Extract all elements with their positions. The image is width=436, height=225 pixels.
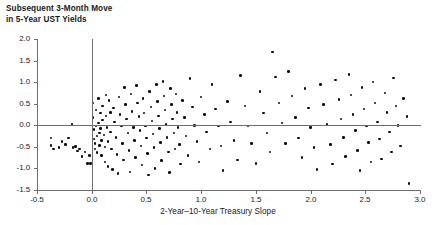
data-point: [356, 149, 359, 152]
data-point: [67, 137, 70, 140]
data-point: [376, 121, 379, 124]
data-point: [406, 115, 409, 118]
data-point: [96, 135, 99, 138]
data-point: [334, 79, 337, 82]
data-point: [255, 162, 258, 165]
data-point: [319, 83, 322, 86]
x-tick: [311, 191, 312, 194]
data-point: [128, 149, 131, 152]
data-point: [125, 118, 128, 121]
y-axis-spine: [37, 39, 38, 191]
data-point: [160, 159, 163, 162]
data-point: [94, 142, 97, 145]
x-tick: [256, 191, 257, 194]
data-point: [148, 90, 151, 93]
y-tick: [34, 61, 37, 62]
data-point: [150, 106, 153, 109]
data-point: [155, 83, 158, 86]
data-point: [119, 113, 122, 116]
data-point: [348, 73, 351, 76]
data-point: [136, 102, 139, 105]
data-point: [162, 80, 165, 83]
data-point: [388, 131, 391, 134]
data-point: [74, 145, 77, 148]
data-point: [171, 118, 174, 121]
data-point: [178, 143, 181, 146]
data-point: [96, 151, 99, 154]
scatter-plot-area: -1.5-1.0-0.50.00.51.01.52.0-0.50.00.51.0…: [0, 0, 436, 225]
x-tick: [92, 191, 93, 194]
data-point: [386, 111, 389, 114]
data-point: [122, 159, 125, 162]
data-point: [141, 164, 144, 167]
data-point: [294, 116, 297, 119]
data-point: [281, 122, 284, 125]
y-tick: [34, 147, 37, 148]
data-point: [269, 151, 272, 154]
data-point: [158, 127, 161, 130]
data-point: [176, 111, 179, 114]
data-point: [301, 156, 304, 159]
data-point: [105, 94, 108, 97]
data-point: [52, 148, 55, 151]
data-point: [408, 182, 411, 185]
data-point: [133, 139, 136, 142]
data-point: [86, 162, 89, 165]
y-tick-label: 0.0: [4, 120, 30, 129]
data-point: [107, 165, 110, 168]
data-point: [173, 132, 176, 135]
data-point: [211, 83, 214, 86]
data-point: [177, 126, 180, 129]
x-tick: [201, 191, 202, 194]
data-point: [278, 102, 281, 105]
data-point: [209, 148, 212, 151]
data-point: [121, 142, 124, 145]
x-tick: [146, 191, 147, 194]
data-point: [185, 135, 188, 138]
data-point: [370, 161, 373, 164]
data-point: [76, 150, 79, 153]
data-point: [384, 92, 387, 95]
data-point: [174, 148, 177, 151]
data-point: [284, 142, 287, 145]
data-point: [259, 90, 262, 93]
data-point: [205, 131, 208, 134]
y-tick-label: -0.5: [4, 142, 30, 151]
data-point: [271, 51, 274, 54]
data-point: [340, 118, 343, 121]
data-point: [322, 103, 325, 106]
data-point: [329, 143, 332, 146]
data-point: [198, 161, 201, 164]
data-point: [179, 163, 182, 166]
data-point: [262, 112, 265, 115]
data-point: [105, 115, 108, 118]
data-point: [98, 132, 101, 135]
data-point: [372, 81, 375, 84]
data-point: [316, 168, 319, 171]
data-point: [374, 102, 377, 105]
data-point: [101, 105, 104, 108]
y-tick: [34, 168, 37, 169]
data-point: [399, 145, 402, 148]
data-point: [142, 97, 145, 100]
data-point: [154, 167, 157, 170]
data-point: [116, 153, 119, 156]
data-point: [361, 86, 364, 89]
data-point: [367, 141, 370, 144]
x-tick-label: 1.5: [236, 195, 276, 204]
data-point: [244, 105, 247, 108]
data-point: [159, 141, 162, 144]
data-point: [78, 148, 81, 151]
data-point: [344, 155, 347, 158]
data-point: [309, 126, 312, 129]
data-point: [100, 139, 103, 142]
data-point: [390, 151, 393, 154]
data-point: [97, 122, 100, 125]
y-tick-label: 0.5: [4, 99, 30, 108]
data-point: [84, 151, 87, 154]
data-point: [100, 154, 103, 157]
data-point: [151, 120, 154, 123]
data-point: [183, 116, 186, 119]
data-point: [112, 107, 115, 110]
data-point: [187, 154, 190, 157]
